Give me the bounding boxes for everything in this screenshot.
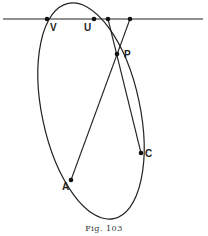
- figure-diagram: [0, 0, 208, 236]
- point-u: [92, 17, 97, 22]
- line-to-a: [71, 19, 130, 180]
- point-line-top-1: [106, 17, 111, 22]
- figure-caption: Fig. 103: [0, 224, 208, 233]
- label-a: A: [62, 182, 69, 192]
- label-c: C: [145, 149, 152, 159]
- label-u: U: [84, 23, 91, 33]
- point-line-top-2: [128, 17, 133, 22]
- line-to-c: [108, 19, 141, 153]
- point-p: [115, 52, 120, 57]
- label-v: V: [50, 23, 57, 33]
- point-a: [69, 178, 74, 183]
- ellipse: [20, 0, 162, 229]
- label-p: P: [124, 50, 131, 60]
- point-v: [45, 17, 50, 22]
- point-c: [139, 151, 144, 156]
